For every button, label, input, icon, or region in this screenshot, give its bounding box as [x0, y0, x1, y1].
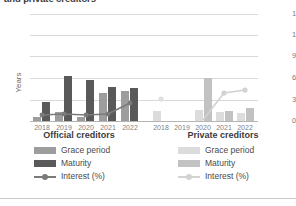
chart-title: and private creditors	[4, 0, 254, 4]
chart-figure: and private creditors 50 40 30 20 10 0 1…	[0, 0, 296, 206]
legend-label-interest: Interest (%)	[61, 171, 105, 182]
legend-item-maturity-official[interactable]: Maturity	[34, 158, 152, 169]
y-tick-right-6: 6	[292, 74, 296, 82]
maturity-swatch-icon	[178, 160, 200, 167]
interest-line-official	[30, 14, 142, 121]
legend-heading-official: Official creditors	[6, 130, 152, 141]
legend-item-grace-official[interactable]: Grace period	[34, 145, 152, 156]
legend-area: Official creditors Grace period Maturity…	[0, 130, 296, 200]
legend-label-maturity: Maturity	[205, 158, 235, 169]
interest-point-2018	[40, 113, 45, 118]
y-tick-right-15: 15	[292, 10, 296, 18]
interest-line-swatch-icon	[34, 173, 56, 180]
y-tick-right-9: 9	[292, 52, 296, 60]
interest-point-2019	[62, 112, 67, 117]
legend-label-interest: Interest (%)	[205, 171, 249, 182]
y-tick-right-3: 3	[292, 96, 296, 104]
y-tick-right-0: 0	[292, 117, 296, 125]
legend-item-interest-private[interactable]: Interest (%)	[178, 171, 296, 182]
interest-point-2018	[158, 96, 163, 101]
interest-point-2022	[128, 101, 133, 106]
maturity-swatch-icon	[34, 160, 56, 167]
plot-area: 50 40 30 20 10 0 15 12 9 6 3 0 Years Int…	[30, 14, 258, 122]
grace-swatch-icon	[34, 147, 56, 154]
legend-item-grace-private[interactable]: Grace period	[178, 145, 296, 156]
legend-item-interest-official[interactable]: Interest (%)	[34, 171, 152, 182]
y-tick-right-12: 12	[292, 31, 296, 39]
legend-heading-private: Private creditors	[150, 130, 296, 141]
panel-official-creditors: 2018 2019 2020 2021 2022	[30, 14, 142, 121]
interest-line-private	[150, 14, 258, 121]
y-axis-title-left: Years	[14, 73, 23, 93]
panel-private-creditors: 2018 2019 2020 2021 2022	[150, 14, 258, 121]
legend-item-maturity-private[interactable]: Maturity	[178, 158, 296, 169]
bottom-divider	[0, 198, 296, 199]
interest-point-2022	[242, 87, 247, 92]
legend-private-creditors: Private creditors Grace period Maturity …	[150, 130, 296, 184]
grace-swatch-icon	[178, 147, 200, 154]
interest-point-2020	[84, 113, 89, 118]
interest-point-2021	[221, 90, 226, 95]
legend-label-grace: Grace period	[61, 145, 110, 156]
interest-point-2021	[106, 112, 111, 117]
legend-label-maturity: Maturity	[61, 158, 91, 169]
interest-line-swatch-icon	[178, 173, 200, 180]
legend-official-creditors: Official creditors Grace period Maturity…	[6, 130, 152, 184]
x-axis-line	[30, 121, 258, 122]
legend-label-grace: Grace period	[205, 145, 254, 156]
